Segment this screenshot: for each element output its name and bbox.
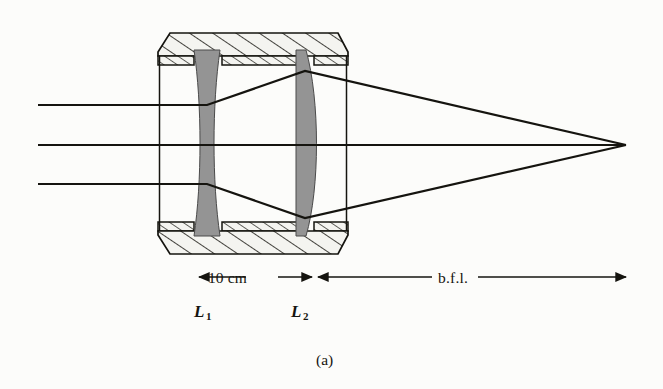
housing-top-inner-strip-mid <box>222 56 298 65</box>
separation-label: 10 cm <box>208 270 247 286</box>
housing-bottom-inner-strip-right <box>314 222 348 231</box>
housing-top-outer-band <box>158 33 348 56</box>
lens-l1-subscript: 1 <box>206 310 212 322</box>
bfl-label: b.f.l. <box>438 270 468 286</box>
ray-bundle <box>38 71 626 218</box>
lens-l1-biconcave <box>194 50 220 236</box>
housing-bottom-inner-strip-left <box>158 222 194 231</box>
housing-bottom <box>158 222 348 254</box>
housing-bottom-inner-strip-mid <box>222 222 298 231</box>
ray-lower <box>38 145 626 218</box>
lens-l1-label: L1 <box>194 303 210 320</box>
lens-l1-letter: L <box>194 302 204 321</box>
lens-l2-planoconvex <box>296 50 317 236</box>
optical-diagram-canvas <box>0 0 663 389</box>
housing-top <box>158 33 348 65</box>
housing-top-inner-strip-left <box>158 56 194 65</box>
lens-l2-letter: L <box>291 302 301 321</box>
housing-top-inner-strip-right <box>314 56 348 65</box>
optical-figure: 10 cm b.f.l. L1 L2 (a) <box>0 0 663 389</box>
figure-caption: (a) <box>316 352 333 368</box>
housing-bottom-outer-band <box>158 231 348 254</box>
ray-upper <box>38 71 626 145</box>
lens-l2-label: L2 <box>291 303 307 320</box>
lens-l2-subscript: 2 <box>303 310 309 322</box>
